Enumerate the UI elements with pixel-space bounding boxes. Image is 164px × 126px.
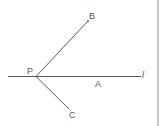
- label-b: B: [89, 12, 95, 21]
- diagram-lines: [0, 0, 164, 126]
- right-border: [157, 0, 159, 126]
- ray-pb: [36, 21, 88, 77]
- ray-pc: [36, 77, 69, 110]
- label-c: C: [69, 111, 76, 120]
- geometry-diagram: P B A C l: [0, 0, 164, 126]
- label-p: P: [27, 67, 33, 76]
- label-line-l: l: [142, 71, 144, 80]
- label-a: A: [95, 80, 101, 89]
